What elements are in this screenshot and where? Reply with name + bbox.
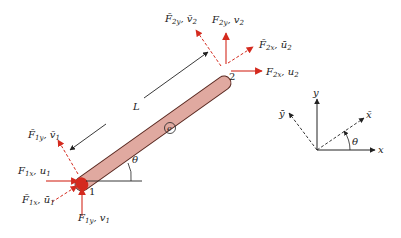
label-n2-local-x: F̄2x, ū2 [258,39,292,52]
label-n2-local-y: F̄2y, v̄2 [164,13,197,26]
coord-angle-label: θ [352,136,358,147]
fe-bar-diagram: L e θ 1 2 F̄1y, v̄1 F1x, u1 F̄1x, ū1 F1y… [0,0,401,238]
label-n1-global-x: F1x, u1 [17,165,51,178]
y-axis-label: y [312,87,319,98]
label-n1-global-y: F1y, v1 [77,212,110,225]
label-n2-global-y: F2y, v2 [211,14,244,27]
label-n2-global-x: F2x, u2 [265,66,299,79]
bar-element: e [73,83,224,193]
length-label: L [132,101,140,112]
x-bar-axis-label: x̄ [366,109,372,120]
force-n2-local-y-arrow [196,30,221,66]
coordinate-system: x y x̄ ȳ θ [278,87,384,155]
force-n2-local-x-arrow [228,47,253,63]
element-label: e [167,124,172,133]
angle-label-theta: θ [132,154,138,165]
x-axis-label: x [378,144,384,155]
y-bar-axis [289,113,317,150]
force-n1-local-y-arrow [58,140,78,174]
label-n1-local-x: F̄1x, ū1 [21,194,55,207]
node-1-label: 1 [89,186,95,197]
y-bar-axis-label: ȳ [278,108,285,119]
force-n1-local-x-arrow [52,186,77,202]
node-2-label: 2 [229,71,235,82]
label-n1-local-y: F̄1y, v̄1 [27,129,60,142]
node-2-forces [196,30,262,71]
